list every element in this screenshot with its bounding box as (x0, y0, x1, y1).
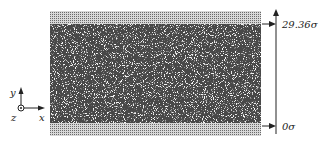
x-axis-label: x (39, 112, 45, 123)
bottom-height-label: 0σ (282, 121, 296, 132)
fluid-particles-texture (50, 24, 261, 123)
z-axis-out-of-plane-icon (18, 105, 24, 111)
top-marker-arrow-icon (262, 21, 276, 27)
height-arrow-icon (273, 9, 279, 134)
top-height-label: 29.36σ (281, 19, 319, 30)
simulation-box-figure: 29.36σ 0σ y z x (0, 0, 328, 146)
axes-indicator: y z x (9, 87, 45, 123)
bottom-marker-arrow-icon (262, 123, 276, 129)
x-axis-arrow-icon (21, 106, 45, 111)
bottom-wall (50, 123, 261, 136)
y-axis-label: y (9, 87, 16, 98)
z-axis-label: z (10, 112, 17, 123)
top-wall (50, 11, 261, 24)
